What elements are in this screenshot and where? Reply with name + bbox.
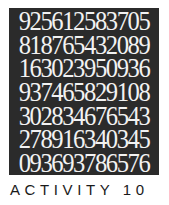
number-grid-panel: 925612583705 818765432089 163023950936 9… (9, 8, 159, 175)
number-row: 163023950936 (14, 57, 154, 79)
number-row: 278916340345 (14, 128, 154, 150)
activity-caption: ACTIVITY 10 (10, 181, 160, 198)
number-row: 818765432089 (14, 34, 154, 56)
number-row: 093693786576 (14, 152, 154, 174)
number-row: 937465829108 (14, 81, 154, 103)
number-row: 302834676543 (14, 105, 154, 127)
number-row: 925612583705 (14, 10, 154, 32)
